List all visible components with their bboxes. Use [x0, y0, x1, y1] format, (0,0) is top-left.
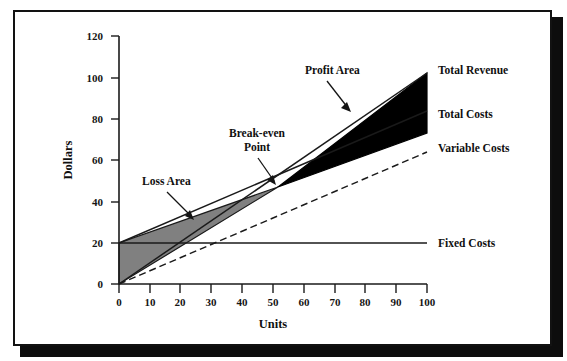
y-tick-label-0: 0: [98, 278, 104, 290]
profit-area-polygon: [278, 73, 427, 187]
region-loss-area: [119, 187, 278, 284]
x-tick-label-20: 20: [175, 296, 187, 308]
loss-area-polygon: [119, 187, 278, 284]
annotation-profit-area-text: Profit Area: [305, 64, 360, 76]
annotation-loss-area: Loss Area: [142, 175, 194, 220]
y-tick-label-120: 120: [87, 30, 104, 42]
figure-frame: 0 20 40 60 80 100 120: [13, 10, 552, 346]
series-label-total-costs: Total Costs: [438, 108, 493, 120]
series-label-total-revenue: Total Revenue: [438, 64, 508, 76]
x-tick-label-50: 50: [268, 296, 280, 308]
x-tick-label-100: 100: [419, 296, 436, 308]
series-label-variable-costs: Variable Costs: [438, 142, 510, 154]
x-tick-label-80: 80: [360, 296, 372, 308]
annotation-loss-area-text: Loss Area: [142, 175, 191, 187]
y-tick-label-20: 20: [92, 237, 104, 249]
x-tick-label-40: 40: [237, 296, 249, 308]
x-axis-tick-labels: 0 10 20 30 40 50 60 70 80 90 100: [116, 296, 436, 308]
y-axis-title: Dollars: [61, 140, 75, 179]
y-axis-ticks: [111, 36, 119, 284]
chart-plot-svg: 0 20 40 60 80 100 120: [15, 12, 554, 348]
y-tick-label-100: 100: [87, 72, 104, 84]
annotation-profit-area-arrow-head: [341, 102, 351, 112]
x-tick-label-10: 10: [145, 296, 157, 308]
x-tick-label-70: 70: [330, 296, 342, 308]
annotation-profit-area-arrow-shaft: [327, 81, 348, 108]
region-profit-area: [278, 73, 427, 187]
y-tick-label-40: 40: [92, 196, 104, 208]
x-axis-ticks: [119, 284, 427, 293]
y-axis-tick-labels: 0 20 40 60 80 100 120: [87, 30, 104, 290]
x-tick-label-90: 90: [391, 296, 403, 308]
annotation-profit-area: Profit Area: [305, 64, 360, 112]
annotation-break-even-line1: Break-even: [229, 127, 286, 139]
x-axis-title: Units: [259, 317, 288, 331]
x-tick-label-0: 0: [116, 296, 122, 308]
y-tick-label-60: 60: [92, 154, 104, 166]
y-tick-label-80: 80: [92, 113, 104, 125]
series-label-fixed-costs: Fixed Costs: [438, 237, 496, 249]
annotation-break-even-line2: Point: [244, 141, 270, 153]
break-even-chart: 0 20 40 60 80 100 120: [15, 12, 554, 348]
x-tick-label-30: 30: [206, 296, 218, 308]
series-line-variable-costs: [119, 152, 427, 284]
x-tick-label-60: 60: [299, 296, 311, 308]
